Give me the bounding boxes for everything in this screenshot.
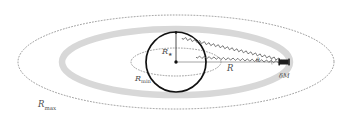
schematic-diagram: R max R min R ★ R θ δM bbox=[0, 0, 354, 124]
label-delta-m: δM bbox=[279, 72, 290, 80]
label-r-star-base: R bbox=[161, 47, 168, 56]
star-center-point bbox=[174, 60, 177, 63]
figure-container: R max R min R ★ R θ δM bbox=[0, 0, 354, 124]
planet-marker bbox=[280, 60, 289, 65]
label-r-min-sub: min bbox=[141, 78, 152, 84]
label-r-min-base: R bbox=[134, 74, 141, 83]
label-theta: θ bbox=[256, 56, 260, 63]
label-r: R bbox=[226, 63, 234, 73]
star-surface-point bbox=[175, 31, 178, 34]
label-r-max-sub: max bbox=[45, 105, 57, 111]
planet-marker-cap-left bbox=[278, 59, 280, 66]
planet-marker-cap-right bbox=[288, 59, 290, 66]
